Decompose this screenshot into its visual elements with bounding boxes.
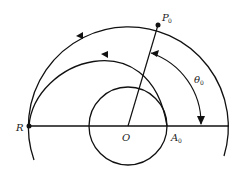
outer-arc-direction-arrow xyxy=(76,32,83,39)
point-P0 xyxy=(156,23,161,28)
radius-line-OP xyxy=(128,25,158,126)
label-theta-sub: 0 xyxy=(200,79,204,86)
orbit-transfer-diagram: P 0 θ 0 R O A 0 xyxy=(0,0,243,173)
label-A-sub: 0 xyxy=(178,137,182,144)
label-O: O xyxy=(122,132,130,143)
label-P-sub: 0 xyxy=(168,17,172,24)
point-R xyxy=(27,124,32,129)
theta-angle-arc xyxy=(151,53,201,124)
transfer-arc xyxy=(29,61,167,126)
transfer-arc-direction-arrow xyxy=(101,51,108,58)
theta-arrowhead-bottom xyxy=(197,116,205,125)
label-A: A xyxy=(170,132,178,143)
label-R: R xyxy=(15,122,24,133)
